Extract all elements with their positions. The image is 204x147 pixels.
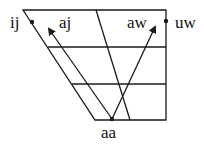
label-ij: ij: [10, 14, 19, 31]
point-ij: [30, 20, 34, 24]
label-uw: uw: [175, 14, 196, 31]
label-aa: aa: [101, 124, 116, 141]
label-aj: aj: [59, 14, 71, 31]
arrow-aa-to-aj: [49, 29, 112, 119]
label-aw: aw: [127, 14, 147, 31]
point-uw: [164, 19, 168, 23]
arrow-aa-to-aw: [112, 27, 155, 119]
point-aa: [110, 117, 114, 121]
